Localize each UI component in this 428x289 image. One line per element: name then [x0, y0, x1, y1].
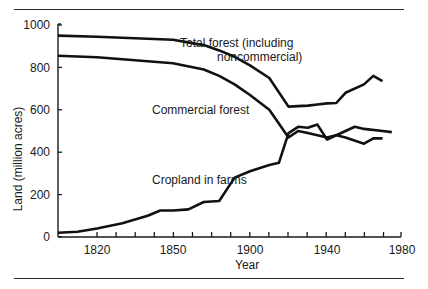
y-tick-200: 200: [20, 188, 50, 202]
data-lines: [58, 36, 392, 233]
x-tick-1850: 1850: [153, 243, 193, 257]
annotation-total-forest-1: Total forest (including: [180, 36, 293, 50]
y-tick-600: 600: [20, 103, 50, 117]
y-tick-1000: 1000: [20, 18, 50, 32]
x-tick-1900: 1900: [230, 243, 270, 257]
x-tick-1980: 1980: [382, 243, 422, 257]
annotation-total-forest-2: noncommercial): [217, 50, 302, 64]
y-tick-0: 0: [20, 230, 50, 244]
annotation-cropland: Cropland in farms: [152, 173, 247, 187]
y-tick-800: 800: [20, 61, 50, 75]
x-tick-1820: 1820: [77, 243, 117, 257]
y-tick-400: 400: [20, 145, 50, 159]
x-tick-1940: 1940: [307, 243, 347, 257]
annotation-commercial-forest: Commercial forest: [152, 103, 249, 117]
x-axis-label: Year: [235, 258, 259, 272]
